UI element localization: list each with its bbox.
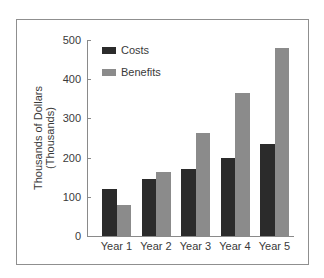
bar-costs-year-1 — [102, 189, 117, 236]
y-tick-label: 100 — [51, 191, 81, 203]
bar-costs-year-2 — [142, 179, 157, 236]
x-tick-label: Year 5 — [255, 240, 295, 252]
bar-benefits-year-3 — [196, 133, 211, 236]
y-tick — [87, 79, 91, 80]
y-tick — [87, 197, 91, 198]
bar-benefits-year-5 — [275, 48, 290, 236]
bar-benefits-year-2 — [156, 172, 171, 236]
x-tick-label: Year 3 — [176, 240, 216, 252]
bar-benefits-year-4 — [235, 93, 250, 236]
legend-item-costs: Costs — [102, 43, 161, 57]
legend-label-benefits: Benefits — [121, 66, 161, 78]
y-axis-title-line-1: Thousands of Dollars — [32, 86, 44, 190]
y-tick — [87, 236, 91, 237]
y-tick-label: 0 — [51, 230, 81, 242]
legend-label-costs: Costs — [121, 44, 149, 56]
legend: Costs Benefits — [102, 43, 161, 87]
y-axis — [87, 40, 88, 236]
y-tick — [87, 118, 91, 119]
bar-costs-year-4 — [221, 158, 236, 236]
legend-swatch-costs — [102, 47, 116, 54]
x-tick-label: Year 1 — [97, 240, 137, 252]
y-tick-label: 300 — [51, 112, 81, 124]
y-axis-title-line-2: (Thousands) — [44, 86, 56, 190]
bar-costs-year-3 — [181, 169, 196, 236]
y-tick — [87, 158, 91, 159]
legend-swatch-benefits — [102, 69, 116, 76]
bar-benefits-year-1 — [117, 205, 132, 236]
legend-item-benefits: Benefits — [102, 65, 161, 79]
x-tick-label: Year 2 — [136, 240, 176, 252]
y-tick — [87, 40, 91, 41]
y-tick-label: 400 — [51, 73, 81, 85]
bar-costs-year-5 — [260, 144, 275, 236]
x-axis — [87, 236, 294, 237]
y-tick-label: 500 — [51, 34, 81, 46]
y-tick-label: 200 — [51, 152, 81, 164]
x-tick-label: Year 4 — [215, 240, 255, 252]
